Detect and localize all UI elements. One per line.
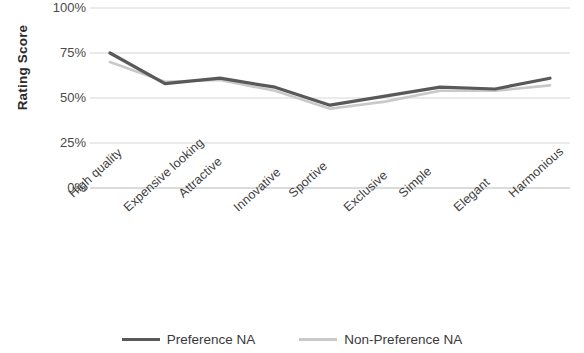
legend-label: Non-Preference NA bbox=[344, 332, 462, 347]
chart-legend: Preference NANon-Preference NA bbox=[0, 326, 584, 352]
series-lines bbox=[110, 53, 550, 109]
legend-item[interactable]: Preference NA bbox=[122, 332, 256, 347]
line-chart: Rating Score 100%75%50%25%0% High qualit… bbox=[0, 0, 584, 353]
legend-line-swatch-icon bbox=[122, 338, 160, 341]
y-axis-tick-label: 75% bbox=[28, 46, 86, 59]
legend-label: Preference NA bbox=[167, 332, 256, 347]
y-axis-tick-labels: 100%75%50%25%0% bbox=[26, 0, 86, 353]
y-axis-tick-label: 50% bbox=[28, 91, 86, 104]
y-axis-tick-label: 25% bbox=[28, 136, 86, 149]
y-axis-tick-label: 100% bbox=[28, 1, 86, 14]
plot-area bbox=[90, 8, 570, 188]
series-line bbox=[110, 53, 550, 105]
x-axis-tick-labels: High qualityExpensive lookingAttractiveI… bbox=[0, 186, 584, 296]
plot-svg bbox=[90, 8, 570, 188]
legend-line-swatch-icon bbox=[299, 338, 337, 341]
legend-item[interactable]: Non-Preference NA bbox=[299, 332, 462, 347]
series-line bbox=[110, 62, 550, 109]
gridlines bbox=[90, 8, 570, 188]
